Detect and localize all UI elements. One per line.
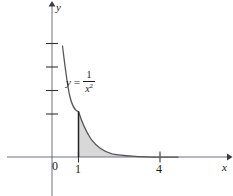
equation-numerator: 1 — [85, 70, 94, 81]
x-tick-label-4: 4 — [156, 163, 162, 175]
figure-graph-of-one-over-x-squared: 0 1 4 x y y = 1 x2 — [0, 0, 233, 196]
equation-fraction: 1 x2 — [83, 70, 95, 94]
function-equation-annotation: y = 1 x2 — [66, 70, 95, 94]
origin-label: 0 — [52, 160, 58, 172]
equation-denominator: x2 — [83, 82, 95, 94]
equation-variable-y: y — [66, 76, 71, 88]
y-axis-label: y — [56, 2, 61, 13]
shaded-area-under-curve — [79, 112, 161, 158]
plot-area — [0, 0, 233, 196]
equation-equals-sign: = — [74, 76, 80, 88]
x-axis-label: x — [222, 162, 227, 173]
x-tick-label-1: 1 — [75, 163, 81, 175]
equation-denominator-exponent: 2 — [90, 82, 94, 90]
y-axis-arrow-icon — [49, 1, 56, 7]
x-axis-arrow-icon — [227, 154, 233, 161]
